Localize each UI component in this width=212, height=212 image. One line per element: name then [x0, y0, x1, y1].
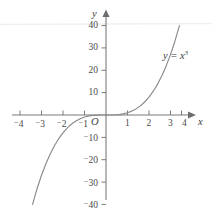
x-tick-label-2: 2: [147, 119, 152, 129]
x-tick-label-4: 4: [182, 119, 187, 129]
y-tick-label-40: 40: [80, 21, 98, 31]
x-axis-label: x: [198, 117, 203, 128]
x-tick-label-1: 1: [125, 119, 130, 129]
y-axis-label: y: [92, 9, 97, 20]
y-tick-label-20: 20: [80, 66, 98, 76]
x-tick-label-3: 3: [168, 119, 173, 129]
x-axis-arrowhead: [188, 111, 196, 118]
equation-exponent: 3: [185, 49, 188, 56]
equation-base: y = x: [163, 50, 185, 61]
y-tick-label-neg10: −10: [75, 133, 98, 144]
origin-label: O: [91, 117, 99, 128]
graph-figure: y x O −4 −3 −2 −1 1 2 3 4 40 30 20 10 −1…: [0, 0, 212, 212]
x-tick-label-neg2: −2: [57, 119, 66, 130]
plot-canvas: [0, 0, 212, 212]
y-tick-label-neg20: −20: [75, 155, 98, 166]
y-tick-label-neg40: −40: [75, 200, 98, 211]
y-tick-label-10: 10: [80, 88, 98, 98]
y-tick-label-neg30: −30: [75, 178, 98, 189]
x-axis-ticks: [20, 111, 182, 116]
y-tick-label-30: 30: [80, 43, 98, 53]
curve-equation-label: y = x3: [163, 51, 188, 62]
x-tick-label-neg3: −3: [36, 119, 45, 130]
x-tick-label-neg4: −4: [14, 119, 23, 130]
x-tick-label-neg1: −1: [79, 119, 88, 130]
y-axis-arrowhead: [102, 10, 109, 18]
